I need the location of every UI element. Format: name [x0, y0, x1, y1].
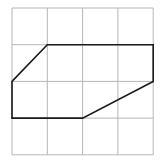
- grid-lines: [12, 8, 153, 155]
- grid-diagram: [0, 0, 160, 160]
